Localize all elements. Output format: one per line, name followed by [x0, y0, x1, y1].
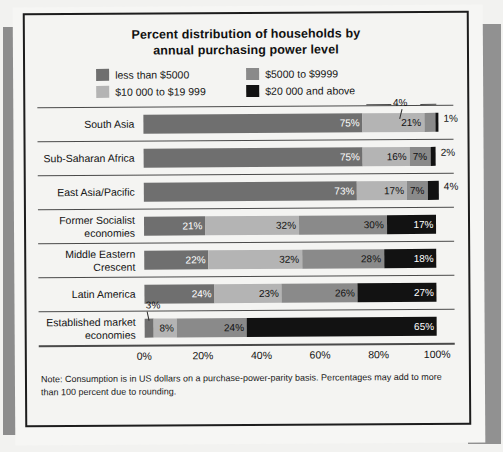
chart-title: Percent distribution of households by an…	[43, 25, 449, 59]
category-label: Former Socialisteconomies	[38, 214, 144, 239]
category-label: South Asia	[37, 118, 143, 131]
bar-segment: 73%	[144, 181, 358, 201]
legend-swatch-icon	[246, 85, 259, 97]
legend-item: less than $5000	[96, 68, 246, 81]
bar-outside-value-label: 2%	[441, 147, 456, 158]
legend-swatch-icon	[246, 68, 259, 80]
legend-label: $10 000 to $19 999	[115, 85, 206, 98]
bar-segment: 7%	[407, 181, 428, 200]
stacked-bar: 24%23%26%27%	[144, 283, 454, 304]
chart-legend: less than $5000$5000 to $9999$10 000 to …	[96, 67, 396, 98]
stacked-bar: 21%32%30%17%	[144, 215, 454, 236]
chart-row: South Asia75%21%1%	[37, 105, 453, 142]
legend-item: $5000 to $9999	[246, 67, 396, 80]
x-tick-label: 100%	[424, 347, 451, 359]
chart-row: Middle EasternCrescent22%32%28%18%	[38, 241, 454, 278]
bar-segment: 23%	[215, 284, 282, 303]
legend-item: $20 000 and above	[246, 84, 396, 97]
chart-row: Established marketeconomies8%24%65%	[39, 309, 455, 346]
chart-title-line-2: annual purchasing power level	[43, 41, 449, 59]
legend-label: less than $5000	[115, 68, 189, 80]
category-label-line-1: Established market	[39, 316, 136, 329]
x-tick-label: 0%	[137, 349, 152, 361]
bar-segment: 16%	[363, 147, 410, 166]
chart-row: Former Socialisteconomies21%32%30%17%	[38, 207, 454, 244]
category-label-line-1: East Asia/Pacific	[38, 186, 135, 199]
bar-segment	[430, 147, 436, 166]
category-label-line-1: Latin America	[38, 288, 135, 301]
legend-label: $5000 to $9999	[265, 67, 338, 79]
bar-segment: 75%	[143, 113, 362, 133]
bar-segment: 32%	[209, 250, 303, 270]
bar-segment: 17%	[357, 181, 407, 200]
bar-segment	[145, 319, 154, 338]
stacked-bar: 75%16%7%2%	[144, 147, 454, 168]
bar-segment: 24%	[177, 318, 247, 337]
bar-segment	[427, 181, 439, 200]
bar-segment: 22%	[144, 250, 208, 269]
bar-segment: 30%	[299, 215, 387, 235]
bar-outside-value-label: 1%	[443, 113, 458, 124]
callout-label-4-percent: 4%	[393, 97, 408, 108]
legend-label: $20 000 and above	[265, 84, 355, 97]
bar-segment: 32%	[205, 216, 299, 236]
stacked-bar: 22%32%28%18%	[144, 249, 454, 270]
category-label-line-2: economies	[39, 328, 136, 341]
legend-swatch-icon	[96, 86, 109, 98]
x-tick-label: 60%	[310, 348, 331, 360]
category-label-line-1: Middle Eastern	[38, 248, 135, 261]
bar-outside-value-label: 4%	[444, 181, 459, 192]
bar-segment: 21%	[144, 216, 206, 235]
category-label: Latin America	[38, 288, 144, 301]
bar-segment	[424, 113, 436, 132]
bar-segment: 7%	[410, 147, 431, 166]
category-label-line-2: Crescent	[38, 260, 135, 273]
legend-item: $10 000 to $19 999	[96, 85, 246, 98]
x-tick-label: 40%	[251, 348, 272, 360]
category-label: Established marketeconomies	[39, 316, 145, 341]
bar-segment: 8%	[153, 318, 177, 337]
chart-row: Latin America24%23%26%27%	[38, 275, 454, 312]
bar-segment: 21%	[363, 113, 425, 132]
bar-segment: 75%	[144, 147, 363, 167]
chart-row: Sub-Saharan Africa75%16%7%2%	[38, 139, 454, 176]
bar-segment	[436, 113, 439, 132]
x-axis-tick-labels: 0%20%40%60%80%100%	[39, 344, 455, 365]
category-label-line-2: economies	[38, 226, 135, 239]
x-tick-label: 80%	[368, 348, 389, 360]
stacked-bar: 75%21%1%	[143, 113, 453, 134]
bar-segment: 18%	[384, 249, 437, 268]
category-label: Sub-Saharan Africa	[38, 152, 144, 165]
category-label-line-1: South Asia	[37, 118, 134, 131]
stacked-bar: 73%17%7%4%	[144, 181, 454, 202]
bar-segment: 17%	[387, 215, 437, 234]
chart-plot-area: South Asia75%21%1%Sub-Saharan Africa75%1…	[37, 105, 454, 346]
callout-rule-right	[420, 104, 437, 105]
callout-label-3-percent: 3%	[146, 300, 161, 311]
x-tick-label: 20%	[192, 349, 213, 361]
stacked-bar: 8%24%65%	[145, 317, 455, 338]
category-label: Middle EasternCrescent	[38, 248, 144, 273]
chart-row: East Asia/Pacific73%17%7%4%	[38, 173, 454, 210]
bar-segment: 27%	[358, 283, 437, 302]
category-label: East Asia/Pacific	[38, 186, 144, 199]
bar-segment: 65%	[247, 317, 437, 337]
category-label-line-1: Former Socialist	[38, 214, 135, 227]
chart-panel: Percent distribution of households by an…	[23, 11, 472, 428]
bar-segment: 28%	[302, 249, 384, 268]
category-label-line-1: Sub-Saharan Africa	[38, 152, 135, 165]
chart-note: Note: Consumption is in US dollars on a …	[41, 370, 453, 399]
bar-segment: 26%	[282, 283, 358, 302]
legend-swatch-icon	[96, 69, 109, 81]
callout-rule-left	[366, 104, 391, 105]
